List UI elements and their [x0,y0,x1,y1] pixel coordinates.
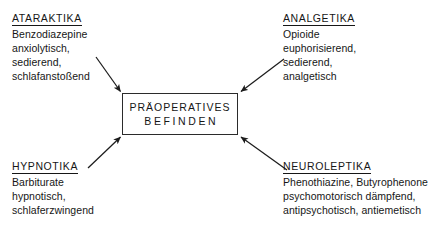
drug-group-line: euphorisierend, [283,41,356,55]
drug-group-analgetika: ANALGETIKA Opioide euphorisierend, sedie… [283,11,356,83]
drug-group-line: schlaferzwingend [12,203,94,217]
drug-group-heading: ANALGETIKA [283,12,355,26]
center-node-line-1: PRÄOPERATIVES [130,100,231,114]
drug-group-heading: HYPNOTIKA [12,160,78,174]
drug-group-hypnotika: HYPNOTIKA Barbiturate hypnotisch, schlaf… [12,159,94,217]
drug-group-heading: ATARAKTIKA [12,12,82,26]
drug-group-line: sedierend, [12,55,90,69]
drug-group-line: psychomotorisch dämpfend, [283,189,428,203]
drug-group-ataraktika: ATARAKTIKA Benzodiazepine anxiolytisch, … [12,11,90,83]
arrow-neuroleptika-to-center [241,137,287,170]
drug-group-line: Barbiturate [12,175,94,189]
drug-group-line: sedierend, [283,55,356,69]
arrow-analgetika-to-center [241,59,284,92]
drug-group-line: Phenothiazine, Butyrophenone [283,175,428,189]
center-node-praeoperatives-befinden: PRÄOPERATIVES BEFINDEN [122,93,238,135]
center-node-line-2: BEFINDEN [142,114,218,128]
drug-group-line: hypnotisch, [12,189,94,203]
drug-group-line: schlafanstoßend [12,69,90,83]
drug-group-line: Opioide [283,27,356,41]
arrow-ataraktika-to-center [96,57,121,92]
drug-group-line: analgetisch [283,69,356,83]
drug-group-line: antipsychotisch, antiemetisch [283,203,428,217]
drug-group-heading: NEUROLEPTIKA [283,160,371,174]
diagram-canvas: ATARAKTIKA Benzodiazepine anxiolytisch, … [0,0,439,226]
drug-group-line: anxiolytisch, [12,41,90,55]
drug-group-neuroleptika: NEUROLEPTIKA Phenothiazine, Butyrophenon… [283,159,428,217]
drug-group-line: Benzodiazepine [12,27,90,41]
